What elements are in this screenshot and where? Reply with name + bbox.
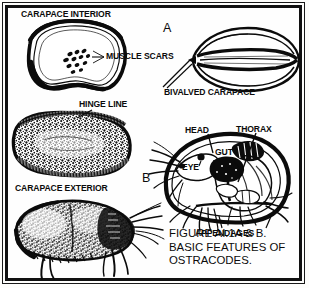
label-eye: EYE [182, 163, 199, 172]
caption-line-2: BASIC FEATURES OF [169, 241, 285, 255]
label-gut: GUT [215, 148, 233, 157]
art-eye-spot [197, 153, 204, 160]
art-carapace-exterior-valve [13, 110, 130, 176]
label-hinge-line: HINGE LINE [79, 100, 127, 109]
label-carapace-exterior: CARAPACE EXTERIOR [15, 184, 108, 193]
label-head: HEAD [185, 126, 209, 135]
caption-line-1: FIGURE AI.1A & B. [169, 227, 285, 241]
label-thorax: THORAX [236, 125, 272, 134]
art-ostracode-exterior [16, 201, 164, 279]
art-bivalved-carapace [163, 28, 299, 91]
label-bivalved-carapace: BIVALVED CARAPACE [164, 88, 255, 97]
figure-plate: CARAPACE INTERIOR MUSCLE SCARS HINGE LIN… [0, 0, 309, 288]
figure-caption: FIGURE AI.1A & B. BASIC FEATURES OF OSTR… [169, 227, 285, 268]
label-muscle-scars: MUSCLE SCARS [106, 52, 174, 61]
label-carapace-interior: CARAPACE INTERIOR [21, 10, 111, 19]
panel-letter-b: B [142, 172, 150, 185]
panel-letter-a: A [163, 22, 171, 35]
caption-line-3: OSTRACODES. [169, 254, 285, 268]
